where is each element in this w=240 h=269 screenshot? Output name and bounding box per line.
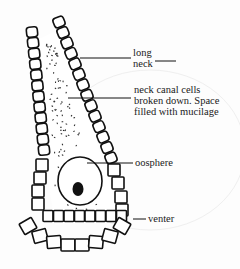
mucilage-dot [62,81,63,83]
oosphere-nucleus [73,182,84,196]
mucilage-dot [47,46,49,47]
wall-cell [34,172,46,184]
label-oosphere: oosphere [135,157,173,168]
wall-cell [106,211,116,222]
wall-cell [89,235,104,248]
mucilage-dot [55,185,56,187]
wall-cell [28,48,40,59]
wall-cell [112,177,124,189]
mucilage-dot [54,152,55,154]
wall-cell [43,211,53,222]
wall-cell [85,211,95,222]
mucilage-dot [62,121,64,122]
wall-cell [36,123,48,134]
label-long-neck-1: long [133,47,152,58]
wall-cell [35,112,47,123]
wall-cell [61,239,75,251]
mucilage-dot [60,130,62,131]
label-canal-1: neck canal cells [134,84,200,95]
wall-cell [32,185,44,197]
wall-cell [32,228,49,243]
wall-cell [96,211,106,222]
mucilage-dot [60,127,62,128]
label-long-neck-2: neck [133,58,154,69]
wall-cell [75,211,85,222]
mucilage-dot [66,85,68,86]
wall-cell [38,144,50,155]
wall-cell [75,239,89,251]
wall-cell [47,235,62,248]
oosphere-cell [58,157,102,205]
mucilage-dot [55,81,56,83]
wall-cell [31,80,43,91]
label-venter: venter [148,213,175,224]
wall-cell [54,211,64,222]
wall-cell [29,59,41,70]
mucilage-dot [54,48,56,49]
wall-cell [26,26,38,37]
wall-cell [37,134,49,145]
wall-cell [64,211,74,222]
archegonium-diagram: long neck neck canal cells broken down. … [0,0,240,269]
label-canal-2: broken down. Space [134,95,220,106]
wall-cell [27,37,39,48]
wall-cell [30,69,42,80]
label-canal-3: filled with mucilage [134,106,219,117]
wall-cell [34,102,46,113]
mucilage-dot [49,49,50,51]
wall-cell [36,159,48,171]
wall-cell [33,91,45,102]
wall-cell [32,198,44,210]
wall-cell [115,191,127,203]
wall-cell [102,228,119,243]
wall-cell [108,164,120,176]
